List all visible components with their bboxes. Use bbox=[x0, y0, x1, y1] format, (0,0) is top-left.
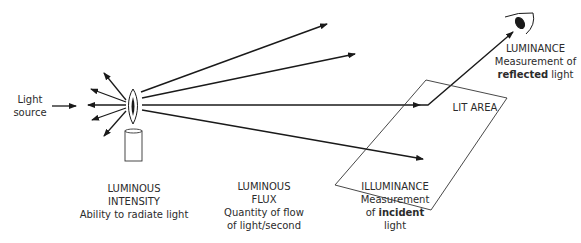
luminous-flux-rays bbox=[141, 24, 423, 159]
eye-icon bbox=[505, 13, 534, 34]
luminous-flux-label: LUMINOUS FLUX Quantity of flow of light/… bbox=[214, 180, 314, 232]
luminous-intensity-label: LUMINOUS INTENSITY Ability to radiate li… bbox=[78, 182, 190, 221]
flame-icon bbox=[129, 89, 138, 124]
lit-area-label: LIT AREA bbox=[440, 101, 510, 114]
candle-icon bbox=[125, 129, 142, 161]
short-rays bbox=[88, 73, 126, 136]
illuminance-label: ILLUMINANCE Measurement of incident ligh… bbox=[350, 180, 440, 232]
light-source-label: Light source bbox=[8, 93, 52, 119]
luminance-label: LUMINANCE Measurement of reflected light bbox=[490, 42, 581, 81]
